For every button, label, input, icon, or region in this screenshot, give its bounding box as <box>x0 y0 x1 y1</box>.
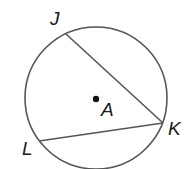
chord-jk <box>66 34 163 123</box>
label-j: J <box>50 9 60 28</box>
label-a: A <box>101 100 114 119</box>
label-k: K <box>168 119 181 138</box>
label-l: L <box>22 139 33 158</box>
center-point-a <box>93 96 99 102</box>
chord-kl <box>39 123 163 141</box>
